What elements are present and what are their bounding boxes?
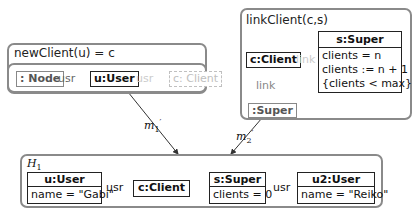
host-title: H1 (27, 157, 42, 172)
edge-link-deleted: link (256, 79, 275, 92)
host-node-user1: u:User name = "Gabi" (27, 172, 102, 204)
node-user: u:User (90, 71, 139, 87)
rule-linkclient-title: linkClient(c,s) (246, 13, 328, 27)
host-edge-usr2: usr (273, 181, 290, 194)
node-super-deleted: :Super (248, 103, 297, 118)
host-node-super: s:Super clients = 0 (209, 172, 266, 204)
edge-usr-new: usr (136, 72, 153, 85)
host-node-user2: u2:User name = "Reiko" (297, 172, 375, 204)
node-client: c:Client (246, 52, 301, 68)
morphism-m2-label: m2′ (236, 128, 253, 145)
morphism-m1-label: m1′ (144, 117, 161, 134)
edge-link-new: link (296, 53, 315, 66)
host-edge-usr1: usr (106, 181, 123, 194)
edge-usr-1: usr (58, 72, 75, 85)
node-super: s:Super clients = n clients := n + 1 {cl… (318, 31, 402, 93)
host-node-client: c:Client (133, 180, 190, 197)
node-client-new: c: Client (169, 71, 222, 87)
